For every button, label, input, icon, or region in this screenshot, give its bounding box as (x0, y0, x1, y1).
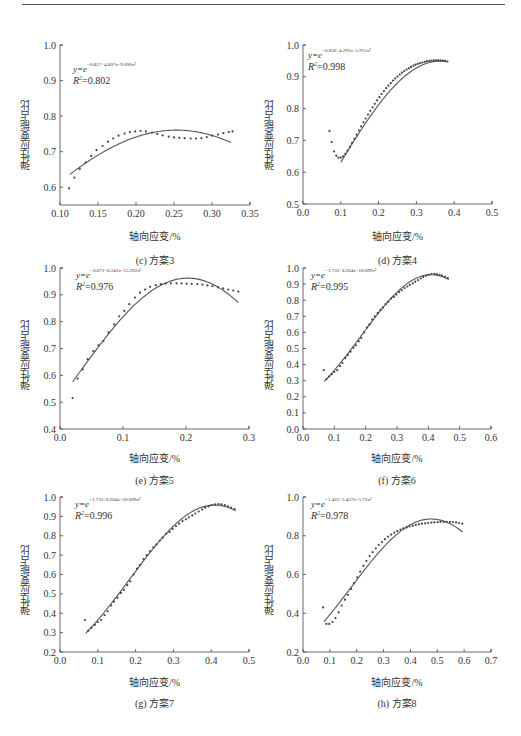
data-point (359, 571, 361, 573)
data-point (350, 588, 352, 590)
data-point (406, 526, 408, 528)
data-point (347, 594, 349, 596)
data-point (421, 523, 423, 525)
y-tick-label: 0.8 (287, 530, 300, 541)
y-axis-label: 弹性应变能占比 (262, 545, 277, 615)
data-point (387, 536, 389, 538)
data-point (381, 541, 383, 543)
y-tick-label: 0.4 (287, 608, 300, 619)
figure-caption: (h) 方案8 (297, 695, 497, 710)
chart-panel-h: 0.20.40.60.81.00.00.10.20.30.40.50.60.7 … (0, 0, 521, 736)
data-point (353, 582, 355, 584)
data-point (458, 522, 460, 524)
data-point (390, 534, 392, 536)
equation-base: y=e (311, 499, 325, 509)
data-point (437, 521, 439, 523)
x-tick-label: 0.4 (404, 655, 417, 666)
data-point (409, 525, 411, 527)
y-tick-label: 1.0 (287, 492, 300, 503)
r-squared-label: R2=0.978 (311, 510, 348, 521)
data-point (378, 544, 380, 546)
x-tick-label: 0.3 (377, 655, 390, 666)
data-point (341, 604, 343, 606)
data-point (455, 521, 457, 523)
data-point (393, 532, 395, 534)
data-point (325, 623, 327, 625)
data-point (424, 522, 426, 524)
data-point (396, 530, 398, 532)
data-point (334, 617, 336, 619)
data-point (384, 538, 386, 540)
data-point (461, 523, 463, 525)
data-point (365, 560, 367, 562)
data-point (427, 522, 429, 524)
equation-exponent: −1.422+5.457x−5.72x² (325, 497, 371, 502)
data-point (372, 551, 374, 553)
data-point (446, 521, 448, 523)
data-point (369, 555, 371, 557)
data-point (399, 529, 401, 531)
data-point (443, 521, 445, 523)
data-point (344, 599, 346, 601)
data-point (338, 611, 340, 613)
data-point (331, 621, 333, 623)
data-point (356, 576, 358, 578)
data-point (418, 523, 420, 525)
x-tick-label: 0.7 (485, 655, 498, 666)
fit-curve (324, 519, 463, 622)
data-point (362, 565, 364, 567)
plot-svg: 0.20.40.60.81.00.00.10.20.30.40.50.60.7 (0, 0, 521, 736)
data-point (412, 525, 414, 527)
data-point (402, 527, 404, 529)
data-point (328, 623, 330, 625)
data-point (322, 606, 324, 608)
x-tick-label: 0.6 (458, 655, 471, 666)
x-tick-label: 0.0 (297, 655, 310, 666)
x-tick-label: 0.2 (350, 655, 363, 666)
y-tick-label: 0.6 (287, 569, 300, 580)
data-point (439, 521, 441, 523)
x-axis-label: 轴向应变/% (297, 674, 497, 689)
data-point (449, 521, 451, 523)
x-tick-label: 0.5 (431, 655, 444, 666)
data-point (375, 547, 377, 549)
data-point (452, 521, 454, 523)
data-point (415, 524, 417, 526)
fit-equation: y=e−1.422+5.457x−5.72x² (311, 497, 371, 509)
x-tick-label: 0.1 (324, 655, 337, 666)
data-point (433, 521, 435, 523)
r-squared-value: 0.978 (326, 510, 349, 521)
data-point (430, 522, 432, 524)
